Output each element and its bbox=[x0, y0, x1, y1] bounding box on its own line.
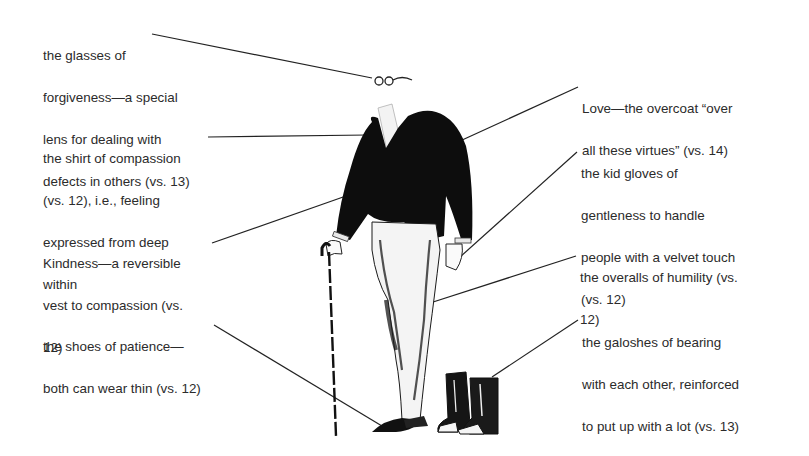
callout-line: forgiveness—a special bbox=[43, 87, 190, 108]
leader-lines bbox=[152, 34, 578, 426]
leader-vest bbox=[212, 196, 346, 243]
callout-shoes: the shoes of patience— both can wear thi… bbox=[43, 315, 201, 420]
callout-line: both can wear thin (vs. 12) bbox=[43, 378, 201, 399]
callout-line: the shirt of compassion bbox=[43, 148, 181, 169]
leader-galoshes bbox=[492, 320, 578, 377]
leader-shoes bbox=[214, 325, 382, 426]
glasses-icon bbox=[375, 77, 412, 85]
leader-overcoat bbox=[460, 87, 578, 141]
callout-line: the shoes of patience— bbox=[43, 336, 201, 357]
leader-shirt bbox=[208, 135, 368, 137]
overcoat-shape bbox=[336, 111, 472, 242]
cuff-right bbox=[455, 238, 471, 243]
glove-right bbox=[446, 244, 462, 270]
callout-line: to put up with a lot (vs. 13) bbox=[582, 416, 739, 437]
callout-line: Kindness—a reversible bbox=[43, 253, 183, 274]
callout-line: Love—the overcoat “over bbox=[582, 98, 732, 119]
callout-line: gentleness to handle bbox=[581, 205, 735, 226]
callout-line: the galoshes of bearing bbox=[582, 332, 739, 353]
galoshes-icon bbox=[438, 372, 498, 434]
callout-line: (vs. 12), i.e., feeling bbox=[43, 190, 181, 211]
callout-line: the overalls of humility (vs. bbox=[580, 267, 738, 288]
callout-line: vest to compassion (vs. bbox=[43, 295, 183, 316]
callout-line: the kid gloves of bbox=[581, 163, 735, 184]
callout-galoshes: the galoshes of bearing with each other,… bbox=[582, 311, 739, 456]
callout-line: with each other, reinforced bbox=[582, 374, 739, 395]
cane bbox=[329, 252, 336, 436]
callout-line: the glasses of bbox=[43, 45, 190, 66]
